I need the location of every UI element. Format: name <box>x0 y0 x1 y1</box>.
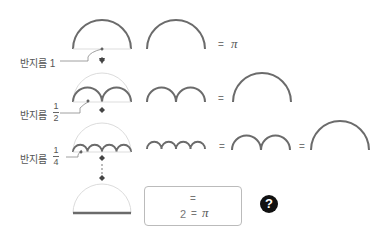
two-half-arcs <box>73 88 131 103</box>
equals-sign: = <box>190 193 196 204</box>
pi-result: π <box>202 205 209 221</box>
semicircle-radius-1 <box>73 20 131 49</box>
radius-fraction-half: 12 <box>53 102 59 123</box>
semicircle-copy <box>147 20 205 49</box>
arrow-down-icon <box>99 57 105 64</box>
conclusion-box: = 2 = π <box>144 186 242 226</box>
equals-sign: = <box>218 39 224 50</box>
arrow-down-icon <box>99 175 105 181</box>
semicircle-equal-2 <box>311 121 369 150</box>
semicircle-equal <box>233 73 291 102</box>
radius-label: 반지름 <box>20 151 47 166</box>
question-mark-icon: ? <box>260 195 278 213</box>
equals-sign: = <box>191 208 197 219</box>
equals-sign: = <box>218 93 224 104</box>
radius-label: 반지름 <box>20 107 47 122</box>
two-half-arcs-copy <box>147 88 205 103</box>
value-two: 2 <box>180 208 186 220</box>
pi-result: π <box>231 36 238 52</box>
equals-sign: = <box>299 141 305 152</box>
two-arcs-equal <box>232 136 290 151</box>
radius-label: 반지름 1 <box>20 55 55 70</box>
four-quarter-arcs-copy <box>147 142 205 149</box>
radius-fraction-quarter: 14 <box>53 146 59 167</box>
arrow-down-icon <box>99 155 105 161</box>
arrow-down-icon <box>99 107 105 113</box>
equals-sign: = <box>219 141 225 152</box>
